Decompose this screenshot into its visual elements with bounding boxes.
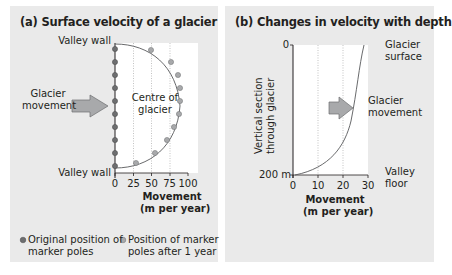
y-tick-b-0: 0 bbox=[283, 39, 289, 51]
valley-floor-label: Valley floor bbox=[385, 166, 415, 190]
legend-original-position: Original position of marker poles bbox=[28, 234, 123, 258]
x-tick-a-100: 100 bbox=[178, 178, 198, 190]
glacier-surface-label: Glacier surface bbox=[385, 39, 422, 63]
legend-after-one-year: Position of marker poles after 1 year bbox=[128, 234, 219, 258]
x-tick-b-30: 30 bbox=[360, 180, 376, 192]
x-tick-a-25: 25 bbox=[126, 178, 141, 190]
glacier-movement-arrow-icon bbox=[72, 95, 108, 117]
x-tick-a-0: 0 bbox=[109, 178, 121, 190]
glacier-movement-label-b: Glacier movement bbox=[368, 95, 422, 119]
panel-surface-velocity: (a) Surface velocity of a glacier bbox=[10, 6, 218, 262]
x-tick-a-50: 50 bbox=[144, 178, 159, 190]
y-axis-label-b: Vertical section through glacier bbox=[247, 80, 283, 150]
centre-of-glacier-label: Centre of glacier bbox=[126, 92, 184, 116]
x-tick-b-20: 20 bbox=[335, 180, 351, 192]
valley-wall-bottom-label: Valley wall bbox=[58, 167, 111, 179]
panel-velocity-depth: (b) Changes in velocity with depth 0 200… bbox=[225, 6, 434, 262]
x-axis-label-a: Movement (m per year) bbox=[140, 191, 204, 215]
panel-a-chart bbox=[10, 6, 218, 262]
x-tick-b-10: 10 bbox=[310, 180, 326, 192]
valley-wall-top-label: Valley wall bbox=[58, 35, 111, 47]
glacier-movement-label-a: Glacier movement bbox=[22, 88, 74, 112]
x-tick-a-75: 75 bbox=[162, 178, 177, 190]
x-axis-label-b: Movement (m per year) bbox=[303, 194, 367, 218]
x-tick-b-0: 0 bbox=[287, 180, 299, 192]
